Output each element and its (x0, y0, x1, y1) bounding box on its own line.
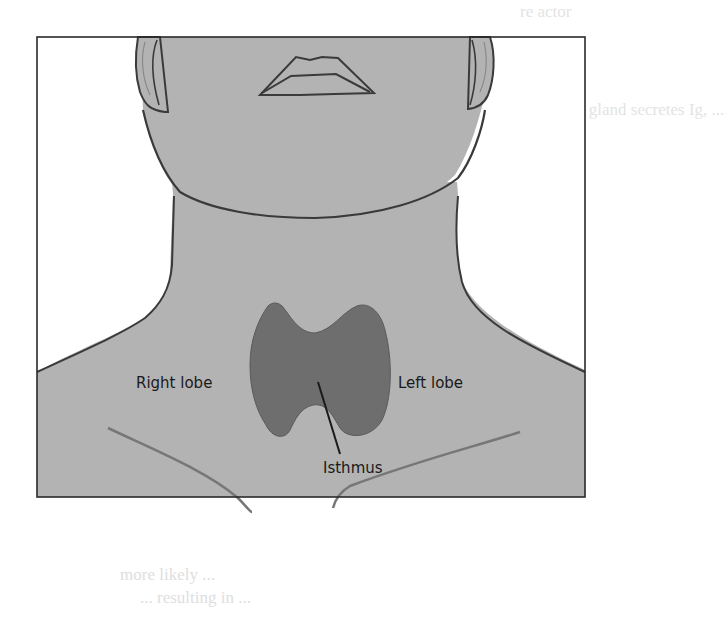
label-isthmus: Isthmus (323, 459, 383, 477)
bleed-through-line: more likely ... (120, 565, 215, 585)
label-right-lobe: Right lobe (136, 374, 212, 392)
label-left-lobe: Left lobe (398, 374, 463, 392)
bleed-through-line: ... resulting in ... (140, 588, 251, 608)
